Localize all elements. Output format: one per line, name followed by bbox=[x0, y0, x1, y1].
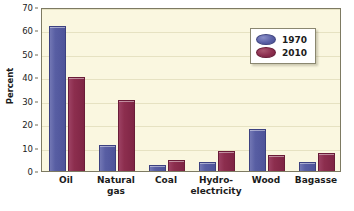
y-axis-tick-label: 30 bbox=[22, 97, 33, 107]
bar-2010 bbox=[168, 160, 185, 171]
bar-group bbox=[149, 9, 185, 171]
y-axis-tick-label: 20 bbox=[22, 120, 33, 130]
legend-swatch-2010-icon bbox=[256, 47, 276, 58]
x-axis-tick-labels: OilNatural gasCoalHydro- electricityWood… bbox=[41, 175, 341, 209]
y-axis-tick-label: 0 bbox=[28, 167, 33, 177]
bar-1970 bbox=[299, 162, 316, 171]
bar-1970 bbox=[249, 129, 266, 171]
legend-item: 1970 bbox=[256, 33, 307, 46]
bar-2010 bbox=[218, 151, 235, 171]
y-axis-tick-labels: 010203040506070 bbox=[17, 8, 38, 172]
bar-2010 bbox=[118, 100, 135, 171]
bar-group bbox=[49, 9, 85, 171]
y-axis-tick-mark bbox=[35, 148, 38, 149]
y-axis-tick-mark bbox=[35, 78, 38, 79]
y-axis-tick-label: 60 bbox=[22, 26, 33, 36]
bar-chart-figure: Percent 010203040506070 OilNatural gasCo… bbox=[0, 0, 354, 211]
bar-2010 bbox=[268, 155, 285, 171]
bar-group bbox=[99, 9, 135, 171]
y-axis-tick-mark bbox=[35, 54, 38, 55]
x-axis-tick-label: Bagasse bbox=[285, 175, 347, 186]
y-axis-tick-mark bbox=[35, 8, 38, 9]
bar-2010 bbox=[68, 77, 85, 171]
bar-group bbox=[199, 9, 235, 171]
y-axis-tick-label: 70 bbox=[22, 3, 33, 13]
bar-1970 bbox=[49, 26, 66, 171]
bar-2010 bbox=[318, 153, 335, 171]
chart-legend: 1970 2010 bbox=[250, 28, 316, 64]
bar-1970 bbox=[149, 165, 166, 171]
y-axis-title: Percent bbox=[2, 0, 18, 172]
y-axis-tick-label: 10 bbox=[22, 144, 33, 154]
y-axis-tick-label: 50 bbox=[22, 50, 33, 60]
y-axis-tick-label: 40 bbox=[22, 73, 33, 83]
legend-swatch-1970-icon bbox=[256, 34, 276, 45]
legend-label-2010: 2010 bbox=[282, 48, 307, 58]
y-axis-title-text: Percent bbox=[5, 68, 15, 104]
y-axis-tick-mark bbox=[35, 125, 38, 126]
y-axis-tick-mark bbox=[35, 101, 38, 102]
y-axis-tick-mark bbox=[35, 31, 38, 32]
y-axis-tick-mark bbox=[35, 172, 38, 173]
bar-1970 bbox=[99, 145, 116, 171]
legend-item: 2010 bbox=[256, 46, 307, 59]
legend-label-1970: 1970 bbox=[282, 35, 307, 45]
bar-1970 bbox=[199, 162, 216, 171]
